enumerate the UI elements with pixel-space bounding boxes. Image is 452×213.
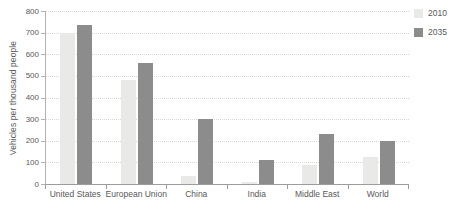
y-tick-label-200: 200 [13,136,39,145]
legend-item-2010: 2010 [414,9,447,18]
x-tick-mark-0 [45,185,46,189]
gridline-800 [46,11,409,12]
y-tick-label-100: 100 [13,158,39,167]
legend-swatch-2035 [414,28,423,37]
legend-label-2035: 2035 [428,28,447,37]
x-tick-mark-3 [227,185,228,189]
x-tick-mark-6 [408,185,409,189]
x-category-label-india: India [227,189,288,199]
bar-2035-european-union [138,63,153,184]
x-tick-mark-1 [106,185,107,189]
y-tick-mark-200 [41,141,45,142]
bar-chart: Vehicles per thousand people United Stat… [0,0,452,213]
y-tick-label-300: 300 [13,115,39,124]
x-tick-mark-4 [287,185,288,189]
y-tick-mark-100 [41,162,45,163]
y-tick-mark-400 [41,98,45,99]
y-tick-label-600: 600 [13,50,39,59]
x-tick-mark-2 [166,185,167,189]
x-tick-mark-5 [348,185,349,189]
gridline-700 [46,33,409,34]
legend-label-2010: 2010 [428,9,447,18]
bar-2010-world [363,157,378,184]
y-tick-mark-800 [41,11,45,12]
bar-2010-middle-east [302,165,317,184]
y-tick-label-500: 500 [13,71,39,80]
y-tick-mark-300 [41,119,45,120]
gridline-500 [46,76,409,77]
gridline-400 [46,98,409,99]
x-category-label-european-union: European Union [106,189,167,199]
y-tick-mark-600 [41,54,45,55]
x-category-label-middle-east: Middle East [287,189,348,199]
bar-2035-india [259,160,274,184]
plot-area [45,11,409,185]
bar-2035-world [380,141,395,184]
bar-2035-china [198,119,213,184]
gridline-300 [46,119,409,120]
bar-2010-united-states [60,33,75,184]
y-tick-label-700: 700 [13,28,39,37]
y-tick-mark-500 [41,76,45,77]
legend-item-2035: 2035 [414,28,447,37]
legend: 20102035 [414,9,447,47]
x-category-label-world: World [348,189,409,199]
bar-2035-united-states [77,25,92,184]
legend-swatch-2010 [414,9,423,18]
x-category-label-china: China [166,189,227,199]
bar-2010-india [242,182,257,184]
y-tick-label-0: 0 [13,180,39,189]
gridline-600 [46,54,409,55]
y-tick-label-400: 400 [13,93,39,102]
gridline-100 [46,162,409,163]
gridline-200 [46,141,409,142]
x-category-label-united-states: United States [45,189,106,199]
y-tick-mark-700 [41,33,45,34]
bar-2035-middle-east [319,134,334,184]
bar-2010-china [181,176,196,184]
bar-2010-european-union [121,80,136,184]
y-tick-label-800: 800 [13,7,39,16]
